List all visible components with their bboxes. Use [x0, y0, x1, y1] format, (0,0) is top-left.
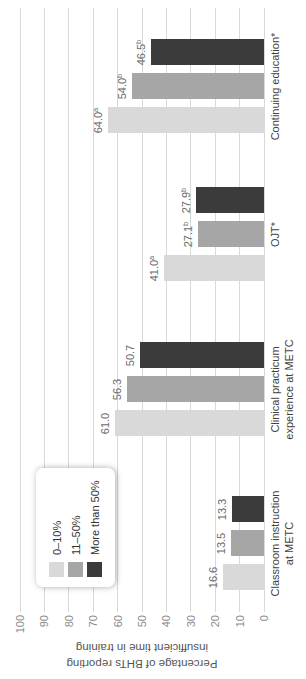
bar-value-label-series1-cat3: 54.0b — [115, 55, 129, 119]
y-tick-label-20: 20 — [209, 615, 222, 661]
category-label-2-line: OJT* — [268, 157, 282, 313]
bar-value-label-series2-cat2: 27.9b — [179, 169, 193, 233]
bar-series2-cat0 — [232, 497, 264, 523]
legend-item-0: 0–10% — [49, 480, 64, 577]
y-tick-label-40: 40 — [160, 615, 173, 661]
bar-value-label-series2-cat0: 13.3 — [215, 478, 229, 542]
y-tick-label-80: 80 — [63, 615, 76, 661]
bar-value-label-series0-cat2: 41.0a — [147, 237, 161, 301]
category-label-0-line: at METC — [282, 466, 296, 622]
bar-value-label-series2-cat3: 46.5b — [134, 21, 148, 85]
y-tick-label-10: 10 — [234, 615, 247, 661]
category-label-3: Continuing education* — [268, 9, 282, 165]
legend-swatch-2 — [87, 562, 102, 577]
bar-series2-cat1 — [140, 343, 264, 369]
legend-label-0: 0–10% — [51, 521, 63, 555]
bar-series0-cat1 — [115, 411, 264, 437]
legend-label-2: More than 50% — [89, 480, 101, 555]
legend-label-1: 11–50% — [70, 515, 82, 555]
bar-value-label-series0-cat3: 64.0a — [91, 89, 105, 153]
y-tick-label-50: 50 — [136, 615, 149, 661]
bar-series0-cat2 — [164, 256, 264, 282]
legend-item-1: 11–50% — [68, 480, 83, 577]
category-label-3-line: Continuing education* — [268, 9, 282, 165]
bar-series1-cat2 — [198, 222, 264, 248]
y-tick-label-0: 0 — [258, 615, 271, 661]
category-label-0: Classroom instructionat METC — [268, 466, 296, 622]
legend-swatch-1 — [68, 562, 83, 577]
legend: 0–10%11–50%More than 50% — [36, 468, 115, 587]
bar-value-label-series1-cat1: 56.3 — [110, 358, 124, 422]
category-label-0-line: Classroom instruction — [268, 466, 282, 622]
category-label-1-line: experience at METC — [282, 312, 296, 468]
gridline-100 — [20, 8, 21, 612]
bar-series0-cat3 — [108, 108, 264, 134]
bar-series1-cat3 — [132, 74, 264, 100]
bar-series1-cat0 — [231, 531, 264, 557]
category-label-1-line: Clinical practicum — [268, 312, 282, 468]
y-tick-label-90: 90 — [38, 615, 51, 661]
y-tick-label-30: 30 — [185, 615, 198, 661]
legend-item-2: More than 50% — [87, 480, 102, 577]
category-label-1: Clinical practicumexperience at METC — [268, 312, 296, 468]
bar-series0-cat0 — [223, 565, 264, 591]
category-label-2: OJT* — [268, 157, 282, 313]
y-tick-label-60: 60 — [112, 615, 125, 661]
y-tick-label-100: 100 — [14, 615, 27, 661]
rotated-bar-chart: Percentage of BHTs reporting insufficien… — [0, 0, 306, 679]
legend-swatch-0 — [49, 562, 64, 577]
bar-value-label-series2-cat1: 50.7 — [123, 324, 137, 388]
y-tick-label-70: 70 — [87, 615, 100, 661]
bar-series1-cat1 — [127, 377, 264, 403]
bar-series2-cat2 — [196, 188, 264, 214]
bar-series2-cat3 — [151, 40, 264, 66]
